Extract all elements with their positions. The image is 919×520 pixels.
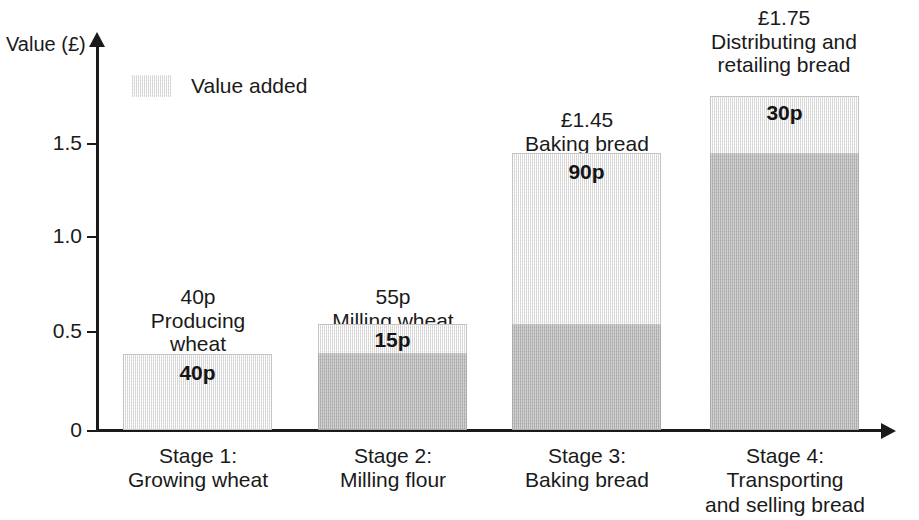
bar-stack-stage-3[interactable]: 90p [512,153,661,430]
bar-segment-base-stage-3[interactable] [512,324,661,430]
bar-caption-stage-3: £1.45 Baking bread [502,108,672,155]
y-tick-label-1-0: 1.0 [22,225,82,246]
category-label-stage-1: Stage 1: Growing wheat [108,444,288,493]
y-tick-label-1-5: 1.5 [22,132,82,153]
y-tick-label-0-5: 0.5 [22,320,82,341]
bar-segment-added-stage-4[interactable]: 30p [710,96,859,154]
category-label-stage-3: Stage 3: Baking bread [497,444,677,493]
bar-stack-stage-2[interactable]: 15p [318,324,467,430]
bar-caption-stage-4: £1.75 Distributing and retailing bread [684,6,884,77]
bar-segment-added-stage-1[interactable]: 40p [123,354,272,430]
bar-segment-added-stage-3[interactable]: 90p [512,153,661,325]
bar-segment-base-stage-2[interactable] [318,353,467,430]
value-added-bar-chart: Value (£) 0 0.5 1.0 1.5 Value added 40p … [0,0,919,520]
category-label-stage-2: Stage 2: Milling flour [303,444,483,493]
category-label-stage-4: Stage 4: Transporting and selling bread [685,444,885,517]
legend-label-value-added: Value added [191,74,307,98]
bar-value-added-stage-1: 40p [124,361,271,385]
legend: Value added [131,74,307,98]
bar-stack-stage-4[interactable]: 30p [710,96,859,430]
x-axis-arrow-icon [881,423,896,439]
y-axis-line [96,44,99,432]
bar-value-added-stage-2: 15p [319,328,466,352]
y-axis-title: Value (£) [6,33,86,56]
bar-stack-stage-1[interactable]: 40p [123,340,272,430]
bar-segment-base-stage-4[interactable] [710,153,859,430]
legend-swatch-value-added [131,75,172,97]
y-axis-arrow-icon [89,32,105,47]
bar-value-added-stage-3: 90p [513,160,660,184]
bar-segment-added-stage-2[interactable]: 15p [318,324,467,354]
bar-value-added-stage-4: 30p [711,101,858,125]
y-tick-label-0: 0 [22,419,82,440]
